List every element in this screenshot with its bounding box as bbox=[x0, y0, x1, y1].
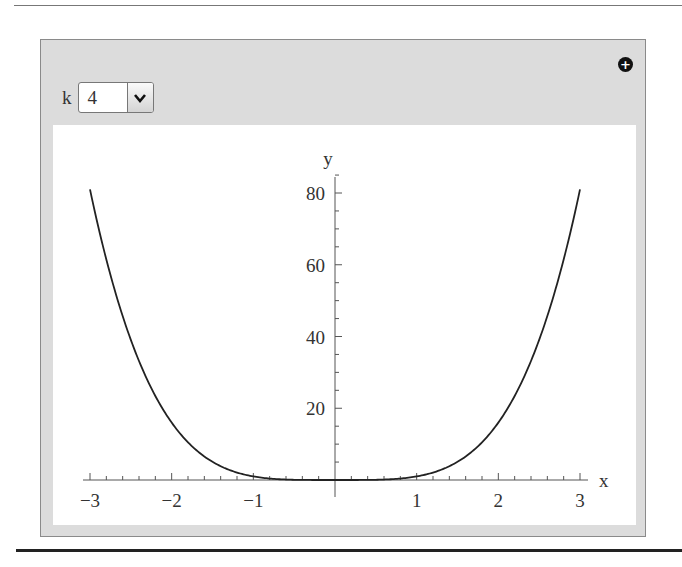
x-tick-label: −1 bbox=[243, 490, 263, 511]
plot-area: −3−2−112320406080xy bbox=[53, 125, 636, 525]
k-label: k bbox=[62, 87, 72, 109]
x-tick-label: 3 bbox=[575, 490, 585, 511]
y-tick-label: 20 bbox=[306, 398, 325, 419]
chart: −3−2−112320406080xy bbox=[53, 125, 636, 525]
k-select-value[interactable]: 4 bbox=[79, 83, 127, 112]
x-tick-label: 1 bbox=[412, 490, 422, 511]
k-dropdown-button[interactable] bbox=[127, 83, 153, 112]
top-rule bbox=[14, 5, 682, 6]
y-tick-label: 60 bbox=[306, 255, 325, 276]
k-control: k 4 bbox=[62, 82, 154, 113]
x-axis-label: x bbox=[599, 470, 609, 491]
y-tick-label: 40 bbox=[306, 327, 325, 348]
chevron-down-icon bbox=[133, 93, 147, 103]
x-tick-label: −3 bbox=[80, 490, 100, 511]
bottom-rule bbox=[16, 549, 682, 552]
x-tick-label: −2 bbox=[162, 490, 182, 511]
y-tick-label: 80 bbox=[306, 183, 325, 204]
plus-circle-icon: + bbox=[620, 57, 631, 72]
y-axis-label: y bbox=[323, 148, 333, 169]
x-tick-label: 2 bbox=[494, 490, 504, 511]
add-button[interactable]: + bbox=[618, 57, 633, 72]
k-select[interactable]: 4 bbox=[78, 82, 154, 113]
